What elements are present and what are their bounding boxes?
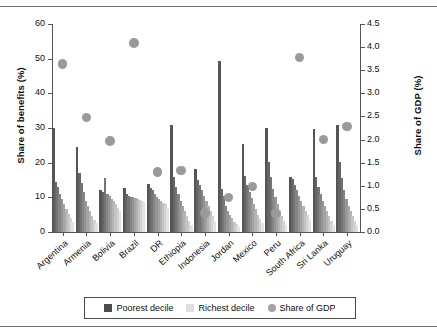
share-of-gdp-point — [105, 136, 115, 146]
y-tick-label-right: 3.0 — [367, 87, 380, 97]
bar — [166, 208, 169, 232]
plot-area — [52, 24, 360, 232]
y-tick-label-right: 0.5 — [367, 203, 380, 213]
y-tick-label-right: 1.5 — [367, 157, 380, 167]
share-of-gdp-dot-icon — [268, 304, 276, 312]
y-tick-label-right: 0.0 — [367, 226, 380, 236]
y-axis-right-title: Share of GDP (%) — [412, 56, 423, 176]
y-tick-label-right: 3.5 — [367, 64, 380, 74]
bar — [95, 223, 98, 232]
y-tick-right — [361, 209, 365, 210]
legend-item-poorest-decile: Poorest decile — [104, 303, 173, 313]
richest-decile-swatch-icon — [186, 304, 194, 312]
bar — [119, 211, 122, 232]
legend-label-richest-decile: Richest decile — [198, 303, 254, 313]
legend-label-share-of-gdp: Share of GDP — [280, 303, 336, 313]
bar — [261, 223, 264, 232]
bar-group — [52, 24, 73, 232]
y-tick-label-left: 30 — [19, 122, 45, 132]
share-of-gdp-point — [342, 122, 352, 132]
bar-group — [170, 24, 191, 232]
bar — [285, 225, 288, 232]
bar — [190, 225, 193, 232]
legend-label-poorest-decile: Poorest decile — [116, 303, 173, 313]
share-of-gdp-point — [176, 166, 186, 176]
bottom-divider — [0, 326, 437, 327]
bar-group — [147, 24, 168, 232]
share-of-gdp-point — [271, 209, 281, 219]
y-tick-right — [361, 93, 365, 94]
chart-page: Share of benefits (%) Share of GDP (%) 0… — [0, 0, 437, 336]
bar-group — [242, 24, 263, 232]
y-tick-label-right: 4.5 — [367, 18, 380, 28]
y-tick-right — [361, 232, 365, 233]
y-tick-right — [361, 116, 365, 117]
bar-group — [123, 24, 144, 232]
bar-group — [194, 24, 215, 232]
bar — [142, 202, 145, 233]
y-tick-label-right: 2.0 — [367, 134, 380, 144]
bar-group — [76, 24, 97, 232]
y-tick-right — [361, 47, 365, 48]
bar — [332, 225, 335, 232]
legend-item-richest-decile: Richest decile — [186, 303, 254, 313]
x-axis-line — [52, 232, 361, 233]
top-divider — [0, 6, 437, 7]
share-of-gdp-point — [153, 167, 163, 177]
y-tick-label-right: 4.0 — [367, 41, 380, 51]
y-tick-right — [361, 140, 365, 141]
y-tick-label-left: 0 — [19, 226, 45, 236]
y-tick-right — [361, 163, 365, 164]
share-of-gdp-point — [129, 38, 139, 48]
legend-item-share-of-gdp: Share of GDP — [268, 303, 336, 313]
y-tick-label-left: 20 — [19, 157, 45, 167]
bar — [356, 225, 359, 232]
share-of-gdp-point — [200, 208, 210, 218]
chart-legend: Poorest decile Richest decile Share of G… — [84, 297, 356, 319]
bar — [213, 221, 216, 232]
bar-group — [265, 24, 286, 232]
bar-group — [99, 24, 120, 232]
y-tick-right — [361, 24, 365, 25]
y-tick-right — [361, 70, 365, 71]
y-tick-label-right: 1.0 — [367, 180, 380, 190]
y-tick-label-left: 10 — [19, 191, 45, 201]
bar — [308, 220, 311, 232]
bar — [71, 222, 74, 232]
y-tick-label-left: 40 — [19, 87, 45, 97]
bar-group — [313, 24, 334, 232]
poorest-decile-swatch-icon — [104, 304, 112, 312]
x-axis-label: Argentina — [0, 238, 69, 315]
y-axis-right-line — [360, 24, 361, 233]
y-tick-label-left: 60 — [19, 18, 45, 28]
y-tick-label-right: 2.5 — [367, 110, 380, 120]
y-tick-right — [361, 186, 365, 187]
y-tick-label-left: 50 — [19, 53, 45, 63]
